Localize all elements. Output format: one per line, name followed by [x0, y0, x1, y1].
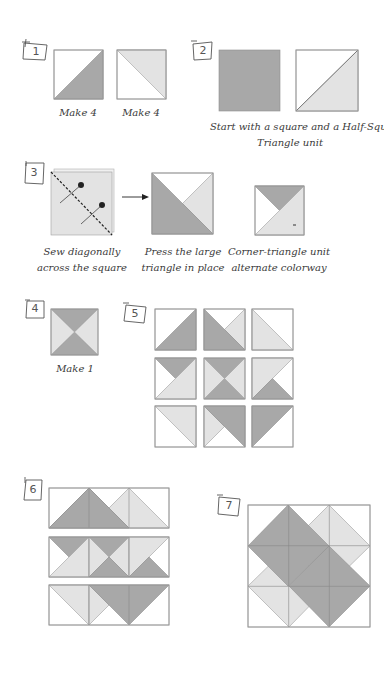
caption-press-line2: triangle in place	[133, 261, 233, 275]
caption-corner-line2: alternate colorway	[224, 261, 334, 275]
corner-triangle-alt-block	[255, 186, 304, 235]
right-arrow-icon	[122, 194, 149, 200]
dark-square-block	[219, 50, 280, 111]
caption-sew-line1: Sew diagonally	[32, 245, 132, 259]
hst-light-block-large	[296, 50, 358, 111]
step-number-2: 2	[194, 42, 212, 60]
step-number-7: 7	[220, 497, 238, 515]
caption-step2-line2: Triangle unit	[210, 136, 370, 150]
step-number-5: 5	[126, 305, 144, 323]
hst-light-block	[117, 50, 166, 99]
caption-make-1: Make 1	[45, 362, 105, 376]
pinned-square-block	[51, 169, 114, 235]
hourglass-block	[51, 309, 98, 355]
pressed-corner-block	[152, 173, 213, 234]
caption-press-line1: Press the large	[133, 245, 233, 259]
quilt-diagram: .d{fill:#a8a8a8;stroke:#8e8e8e;stroke-wi…	[0, 0, 384, 681]
step-number-4: 4	[26, 300, 44, 318]
block-layout-grid	[155, 309, 293, 447]
step-number-6: 6	[24, 481, 42, 499]
caption-sew-line2: across the square	[32, 261, 132, 275]
caption-corner-line1: Corner-triangle unit	[224, 245, 334, 259]
caption-make-4-light: Make 4	[111, 106, 171, 120]
caption-make-4-dark: Make 4	[48, 106, 108, 120]
caption-step2-line1: Start with a square and a Half-Square	[210, 120, 370, 134]
step-number-1: 1	[27, 43, 45, 61]
hst-dark-block	[54, 50, 103, 99]
row-assembly	[49, 488, 169, 625]
finished-block	[248, 505, 370, 627]
step-number-3: 3	[25, 164, 43, 182]
